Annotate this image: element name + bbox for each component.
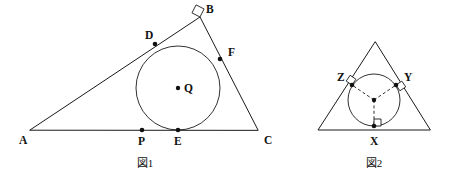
figure2-caption: 図2 <box>366 157 383 169</box>
figure1-right-angle-mark-b <box>192 5 204 17</box>
figure1-vertex-label-c: C <box>264 134 272 146</box>
geometry-svg-canvas: DFEPQABC図1ZYX図2 <box>0 0 450 182</box>
figure1-vertex-label-a: A <box>19 134 28 146</box>
figure1-vertex-label-b: B <box>206 3 214 15</box>
geometry-figure-sheet: DFEPQABC図1ZYX図2 <box>0 0 450 182</box>
figure1-point-label-f: F <box>228 46 235 58</box>
figure1-point-label-p: P <box>138 135 145 147</box>
figure1-point-label-e: E <box>174 135 182 147</box>
figure2-point-label-y: Y <box>404 71 413 83</box>
figure2-radius-to-Z <box>352 85 374 100</box>
figure1-center-label: Q <box>184 82 193 94</box>
figure2-point-label-z: Z <box>337 71 345 83</box>
figure1-point-dot-p <box>140 128 145 133</box>
figure1-center-dot <box>176 86 180 90</box>
figure1-point-label-d: D <box>145 29 153 41</box>
figure1-caption: 図1 <box>137 157 154 169</box>
figure2-point-dot-z <box>350 83 355 88</box>
figure1-point-dot-d <box>153 42 158 47</box>
figure2-point-label-x: X <box>370 135 379 147</box>
figure1-point-dot-e <box>176 128 181 133</box>
figure2-center-dot <box>372 98 376 102</box>
figure2-point-dot-x <box>372 124 377 129</box>
figure2-radius-to-Y <box>374 85 396 100</box>
figure1-point-dot-f <box>218 57 223 62</box>
figure2-point-dot-y <box>394 83 399 88</box>
